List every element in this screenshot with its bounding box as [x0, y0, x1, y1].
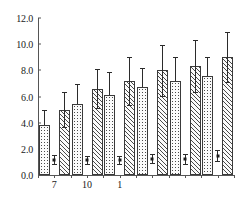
error-bar-marker-cap-upper — [183, 154, 188, 155]
error-bar-marker-cap-lower — [215, 161, 220, 162]
x-axis-tick — [169, 175, 170, 178]
error-bar-hatched-cap-upper — [225, 32, 230, 33]
y-axis-tick-label: 0.0 — [21, 170, 33, 181]
error-bar-hatched-cap-lower — [225, 82, 230, 83]
error-bar-marker-cap-lower — [150, 163, 155, 164]
error-bar-dotted-line — [207, 57, 208, 77]
error-bar-marker-cap-upper — [85, 156, 90, 157]
error-bar-dotted-cap-upper — [42, 110, 47, 111]
error-bar-hatched-line — [64, 92, 65, 127]
error-bar-hatched-cap-lower — [95, 108, 100, 109]
error-bar-dotted-line — [175, 57, 176, 81]
error-bar-hatched-cap-upper — [160, 45, 165, 46]
x-axis-tick — [38, 175, 39, 178]
y-axis-tick-label: 4.0 — [21, 117, 33, 128]
error-bar-dotted-line — [77, 84, 78, 104]
error-bar-hatched-cap-upper — [193, 40, 198, 41]
error-bar-marker-cap-lower — [85, 164, 90, 165]
x-axis-tick — [201, 175, 202, 178]
x-axis-tick-label: 1 — [117, 179, 122, 190]
y-axis-tick-label: 12.0 — [16, 13, 33, 24]
low-value-marker — [86, 159, 89, 162]
error-bar-hatched-cap-lower — [193, 92, 198, 93]
x-axis-tick — [87, 175, 88, 178]
error-bar-hatched-cap-lower — [160, 96, 165, 97]
x-axis-tick — [136, 175, 137, 178]
y-axis-tick-label: 8.0 — [21, 65, 33, 76]
y-axis-tick-label: 2.0 — [21, 143, 33, 154]
error-bar-hatched-cap-upper — [95, 69, 100, 70]
error-bar-dotted-cap-upper — [140, 68, 145, 69]
error-bar-hatched-cap-lower — [127, 105, 132, 106]
error-bar-hatched-line — [129, 57, 130, 105]
error-bar-hatched-line — [162, 45, 163, 96]
error-bar-marker-cap-lower — [117, 164, 122, 165]
bar-dotted — [72, 104, 83, 175]
bar-chart: 0.02.04.06.08.010.012.0 7101 — [0, 0, 241, 200]
error-bar-marker-cap-upper — [117, 156, 122, 157]
error-bar-hatched-cap-upper — [127, 57, 132, 58]
error-bar-marker-cap-upper — [150, 154, 155, 155]
x-axis-tick-label: 7 — [52, 179, 57, 190]
low-value-marker — [118, 158, 121, 161]
bar-dotted — [170, 81, 181, 175]
x-axis-tick — [71, 175, 72, 178]
x-axis-tick — [103, 175, 104, 178]
error-bar-dotted-line — [109, 72, 110, 94]
error-bar-marker-cap-upper — [215, 150, 220, 151]
x-axis-tick — [152, 175, 153, 178]
error-bar-marker-cap-lower — [183, 164, 188, 165]
plot-area — [38, 18, 234, 175]
x-axis-tick — [185, 175, 186, 178]
x-axis-tick — [120, 175, 121, 178]
error-bar-dotted-cap-upper — [173, 57, 178, 58]
error-bar-dotted-line — [142, 68, 143, 86]
error-bar-dotted-cap-upper — [205, 57, 210, 58]
error-bar-hatched-cap-lower — [62, 127, 67, 128]
error-bar-dotted-cap-upper — [107, 72, 112, 73]
error-bar-dotted-line — [44, 110, 45, 125]
low-value-marker — [184, 158, 187, 161]
error-bar-dotted-cap-upper — [75, 84, 80, 85]
x-axis-tick-label: 10 — [82, 179, 92, 190]
y-axis-tick-label: 10.0 — [16, 39, 33, 50]
low-value-marker — [53, 158, 56, 161]
x-axis-tick — [54, 175, 55, 178]
error-bar-marker-cap-lower — [52, 164, 57, 165]
x-axis-tick — [218, 175, 219, 178]
bar-dotted — [202, 76, 213, 175]
bar-dotted — [104, 95, 115, 175]
bar-dotted — [137, 87, 148, 175]
error-bar-marker-cap-upper — [52, 155, 57, 156]
low-value-marker — [151, 157, 154, 160]
error-bar-hatched-line — [227, 32, 228, 82]
low-value-marker — [216, 154, 219, 157]
bar-dotted — [39, 125, 50, 175]
error-bar-hatched-cap-upper — [62, 92, 67, 93]
error-bar-hatched-line — [97, 69, 98, 108]
x-axis-tick — [234, 175, 235, 178]
error-bar-hatched-line — [195, 40, 196, 92]
y-axis-tick-label: 6.0 — [21, 91, 33, 102]
